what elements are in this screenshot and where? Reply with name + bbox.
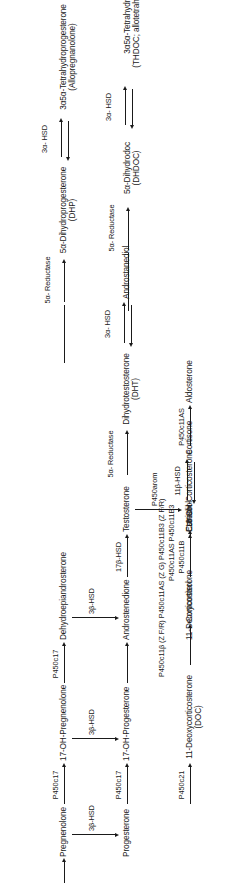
connector-doc-to-5a-limb bbox=[128, 253, 129, 311]
arrowhead-progesterone bbox=[115, 834, 119, 838]
arrow-progesterone-to-doc bbox=[190, 766, 191, 804]
enzyme-p450c11as-aldosterone-label: P450c11AS bbox=[177, 408, 186, 446]
node-aldosterone-label: Aldosterone bbox=[184, 360, 194, 403]
enzyme-5a-reductase-progesterone-line1: 5α- bbox=[43, 293, 52, 304]
enzyme-5a-reductase-testosterone: 5α- Reductase bbox=[107, 429, 115, 479]
node-dehydroepiandrosterone: Dehydroepiandrosterone bbox=[59, 552, 68, 640]
node-11-deoxycorticosterone-line2: (DOC) bbox=[194, 669, 203, 765]
arrowhead-thdoc-forward bbox=[123, 86, 127, 90]
enzyme-5a-reductase-doc: 5α- Reductase bbox=[108, 203, 116, 253]
enzyme-3a-hsd-dhdoc-line1: 3α- bbox=[104, 110, 113, 121]
enzyme-3b-hsd-dhea: 3β-HSD bbox=[88, 588, 96, 614]
node-17oh-pregnenolone-label: 17-OH-Pregnenolone bbox=[58, 685, 68, 761]
connector-progesterone-to-5a-limb bbox=[64, 305, 65, 363]
arrowhead-aldosterone bbox=[188, 405, 192, 409]
arrowhead-17oh-pregnenolone bbox=[62, 763, 66, 767]
arrowhead-corticosterone bbox=[188, 624, 192, 628]
node-progesterone-label: Progesterone bbox=[121, 809, 131, 857]
arrow-17oh-progesterone-to-11-deoxycortisol bbox=[127, 645, 128, 683]
node-dihydrodoc: 5α-Dihydrodoc (DHDOC) bbox=[123, 131, 142, 205]
node-thdoc-line2: (THDOC; allotetrahydrodoc) bbox=[132, 0, 141, 83]
arrow-androstanediol-to-dht bbox=[131, 305, 132, 343]
arrow-dhdoc-to-thdoc bbox=[125, 89, 126, 125]
enzyme-3a-hsd-dhp-line2: HSD bbox=[40, 125, 49, 140]
enzyme-p450c11b-label: P450c11B bbox=[177, 541, 186, 574]
enzyme-p450c17-17oh-pregnenolone-label: P450c17 bbox=[51, 650, 60, 678]
node-18oh-corticosterone-label: 18-OH-Corticosterone bbox=[184, 450, 194, 528]
node-thdoc: 3α5α-Tetrahydrodoc (THDOC; allotetrahydr… bbox=[123, 0, 142, 83]
enzyme-p450c11as-aldosterone: P450c11AS bbox=[178, 404, 186, 450]
node-androstenedione: Androstenedione bbox=[122, 580, 131, 641]
enzyme-p450c17-progesterone: P450c17 bbox=[115, 766, 123, 804]
enzyme-11b-hsd-label: 11β-HSD bbox=[173, 466, 182, 495]
arrowhead-17oh-progesterone-vertical bbox=[115, 738, 119, 742]
enzyme-3b-hsd-17oh-pregnenolone-label: 3β-HSD bbox=[87, 709, 96, 735]
node-androstenedione-label: Androstenedione bbox=[121, 580, 131, 641]
arrow-18oh-corticosterone-to-aldosterone bbox=[190, 408, 191, 446]
node-dihydrotestosterone-line2: (DHT) bbox=[131, 350, 140, 428]
enzyme-p450c17-pregnenolone-label: P450c17 bbox=[51, 771, 60, 799]
node-allopregnanolone: 3α5α-Tetrahydroprogesterone (Allopregnan… bbox=[59, 0, 78, 115]
enzyme-3a-hsd-dht: 3α- HSD bbox=[104, 301, 112, 347]
enzyme-3b-hsd-pregnenolone-label: 3β-HSD bbox=[87, 805, 96, 831]
node-dihydrotestosterone: Dihydrotestosterone (DHT) bbox=[122, 350, 141, 428]
arrowhead-dhp-reverse bbox=[66, 157, 70, 161]
arrow-17oh-pregnenolone-to-17oh-progesterone bbox=[72, 738, 116, 739]
enzyme-3b-hsd-pregnenolone: 3β-HSD bbox=[88, 805, 96, 831]
arrowhead-estradiol bbox=[178, 509, 182, 513]
arrowhead-18oh-corticosterone bbox=[188, 530, 192, 534]
arrow-dhp-to-allopregnanolone bbox=[61, 121, 62, 157]
arrow-dhea-to-androstenedione bbox=[72, 617, 116, 618]
arrow-androstenedione-to-testosterone bbox=[127, 537, 128, 577]
arrowhead-dhdoc-reverse bbox=[130, 125, 134, 129]
enzyme-5a-reductase-doc-line2: Reductase bbox=[107, 205, 116, 239]
node-18oh-corticosterone: 18-OH-Corticosterone bbox=[185, 450, 194, 528]
node-testosterone: Testosterone bbox=[122, 486, 131, 532]
arrow-into-pregnenolone bbox=[64, 861, 65, 883]
arrowhead-into-pregnenolone bbox=[62, 858, 66, 862]
node-androstanediol: Androstanediol bbox=[122, 246, 131, 299]
node-11-deoxycorticosterone: 11-Deoxycorticosterone (DOC) bbox=[185, 669, 204, 765]
node-17oh-progesterone-label: 17-OH-Progesterone bbox=[121, 687, 131, 761]
enzyme-p450c11b3-label: P450c11B3 bbox=[167, 505, 176, 542]
node-17oh-progesterone: 17-OH-Progesterone bbox=[122, 687, 131, 761]
enzyme-group-doc-to-corticosterone: P450c11β (Z F/R) P450c11AS (Z G) P450c11… bbox=[158, 615, 166, 677]
node-dihydroprogesterone-line2: (DHP) bbox=[68, 163, 77, 257]
arrowhead-dhea bbox=[62, 642, 66, 646]
enzyme-p450c11as-label: P450c11AS bbox=[167, 543, 176, 581]
node-androstanediol-label: Androstanediol bbox=[121, 246, 131, 299]
node-pregnenolone: Pregnenolone bbox=[59, 807, 68, 857]
rotated-figure-wrapper: Pregnenolone P450c17 17-OH-Pregnenolone … bbox=[0, 0, 245, 883]
arrow-testosterone-to-dht bbox=[127, 433, 128, 475]
node-17oh-pregnenolone: 17-OH-Pregnenolone bbox=[59, 685, 68, 761]
node-dehydroepiandrosterone-label: Dehydroepiandrosterone bbox=[58, 552, 68, 640]
enzyme-5a-reductase-testosterone-line1: 5α- bbox=[106, 467, 115, 478]
arrow-corticosterone-to-18oh-corticosterone bbox=[190, 533, 191, 571]
arrow-doc-to-dhdoc bbox=[128, 210, 129, 250]
arrow-17oh-pregnenolone-to-dhea bbox=[64, 645, 65, 683]
arrow-dht-to-androstanediol bbox=[124, 305, 125, 343]
node-progesterone: Progesterone bbox=[122, 809, 131, 857]
arrow-allopregnanolone-to-dhp bbox=[68, 121, 69, 157]
enzyme-group-corticosterone-to-18oh: P450c11AS P450c11B3 bbox=[168, 523, 176, 581]
enzyme-p450c17-progesterone-label: P450c17 bbox=[114, 771, 123, 799]
pathway-canvas: Pregnenolone P450c17 17-OH-Pregnenolone … bbox=[0, 0, 245, 883]
arrowhead-dihydroprogesterone bbox=[62, 259, 66, 263]
enzyme-3a-hsd-dht-line2: HSD bbox=[103, 310, 112, 325]
enzyme-p450c21-progesterone-label: P450c21 bbox=[177, 771, 186, 799]
enzyme-3a-hsd-dhp: 3α- HSD bbox=[41, 117, 49, 161]
arrowhead-androstenedione bbox=[115, 617, 119, 621]
enzyme-5a-reductase-progesterone-line2: Reductase bbox=[43, 257, 52, 291]
node-pregnenolone-label: Pregnenolone bbox=[58, 807, 68, 857]
enzyme-p450c11b-zfr-label: P450c11β (Z F/R) bbox=[157, 620, 166, 677]
node-dihydroprogesterone: 5α-Dihydroprogesterone (DHP) bbox=[59, 163, 78, 257]
arrowhead-17oh-progesterone bbox=[125, 763, 129, 767]
arrowhead-11-deoxycortisol bbox=[125, 642, 129, 646]
arrow-progesterone-to-17oh-progesterone bbox=[127, 766, 128, 804]
node-dihydrodoc-line2: (DHDOC) bbox=[132, 131, 141, 205]
node-aldosterone: Aldosterone bbox=[185, 360, 194, 403]
arrow-pregnenolone-to-17oh-pregnenolone bbox=[64, 766, 65, 804]
enzyme-5a-reductase-progesterone: 5α- Reductase bbox=[44, 255, 52, 305]
arrowhead-allopregnanolone-forward bbox=[59, 118, 63, 122]
enzyme-5a-reductase-doc-line1: 5α- bbox=[107, 241, 116, 252]
